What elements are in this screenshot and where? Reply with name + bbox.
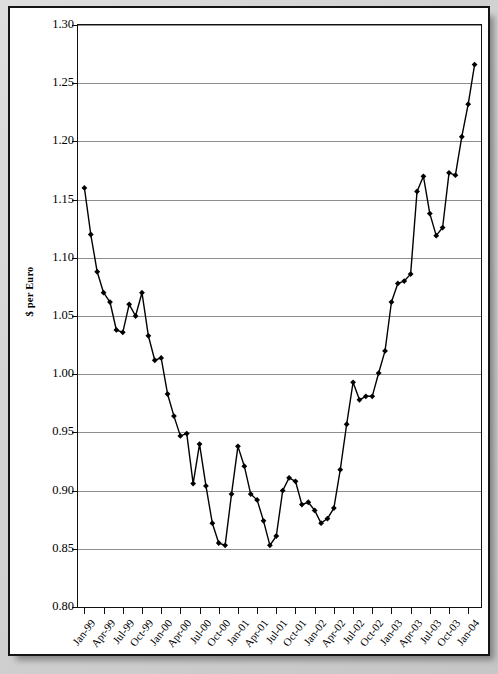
data-point-marker — [94, 269, 100, 275]
x-tick-mark — [449, 607, 450, 614]
x-tick-mark — [104, 607, 105, 614]
x-tick-mark — [353, 607, 354, 614]
y-tick-label: 1.30 — [30, 17, 74, 32]
data-point-marker — [280, 488, 286, 494]
x-tick-mark — [295, 607, 296, 614]
data-point-marker — [203, 483, 209, 489]
y-tick-label: 1.15 — [30, 192, 74, 207]
x-tick-mark — [257, 607, 258, 614]
data-point-marker — [261, 518, 267, 524]
x-tick-mark — [276, 607, 277, 614]
x-tick-mark — [200, 607, 201, 614]
y-tick-label: 1.10 — [30, 250, 74, 265]
data-point-marker — [184, 431, 190, 437]
x-tick-mark — [468, 607, 469, 614]
plot-area: 1.301.251.201.151.101.051.000.950.900.85… — [77, 24, 482, 608]
data-point-marker — [139, 290, 145, 296]
x-tick-mark — [180, 607, 181, 614]
data-point-marker — [88, 232, 94, 238]
x-tick-mark — [315, 607, 316, 614]
y-tick-label: 0.95 — [30, 424, 74, 439]
x-tick-mark — [334, 607, 335, 614]
data-point-marker — [414, 189, 420, 195]
data-point-marker — [459, 134, 465, 140]
x-tick-mark — [123, 607, 124, 614]
data-point-marker — [369, 393, 375, 399]
data-point-marker — [133, 313, 139, 319]
data-point-marker — [337, 467, 343, 473]
plot-wrapper: $ per Euro 1.301.251.201.151.101.051.000… — [10, 8, 488, 654]
x-tick-mark — [219, 607, 220, 614]
data-point-marker — [421, 173, 427, 179]
data-point-marker — [190, 481, 196, 487]
x-tick-mark — [430, 607, 431, 614]
data-point-marker — [376, 370, 382, 376]
data-point-marker — [344, 421, 350, 427]
data-point-marker — [453, 172, 459, 178]
data-point-marker — [241, 463, 247, 469]
y-tick-label: 0.85 — [30, 541, 74, 556]
chart-scene: $ per Euro 1.301.251.201.151.101.051.000… — [0, 0, 498, 674]
data-point-marker — [357, 397, 363, 403]
data-point-marker — [216, 540, 222, 546]
series-line — [84, 65, 474, 546]
data-point-marker — [158, 355, 164, 361]
data-point-marker — [350, 379, 356, 385]
data-point-marker — [382, 348, 388, 354]
data-point-marker — [235, 443, 241, 449]
y-tick-label: 1.05 — [30, 308, 74, 323]
x-tick-mark — [411, 607, 412, 614]
data-point-marker — [120, 329, 126, 335]
data-point-marker — [389, 299, 395, 305]
data-point-marker — [427, 211, 433, 217]
data-point-marker — [465, 101, 471, 107]
data-point-marker — [363, 393, 369, 399]
x-tick-mark — [84, 607, 85, 614]
data-point-marker — [171, 413, 177, 419]
data-point-marker — [145, 333, 151, 339]
data-point-marker — [113, 327, 119, 333]
data-point-marker — [165, 391, 171, 397]
x-tick-mark — [142, 607, 143, 614]
x-tick-mark — [238, 607, 239, 614]
y-tick-label: 1.25 — [30, 75, 74, 90]
data-point-marker — [177, 433, 183, 439]
chart-page: $ per Euro 1.301.251.201.151.101.051.000… — [8, 6, 490, 656]
x-tick-mark — [391, 607, 392, 614]
y-tick-label: 0.80 — [30, 599, 74, 614]
data-series-line — [78, 25, 481, 607]
x-tick-mark — [372, 607, 373, 614]
y-tick-label: 1.00 — [30, 366, 74, 381]
y-tick-label: 0.90 — [30, 483, 74, 498]
data-point-marker — [299, 502, 305, 508]
data-point-marker — [81, 185, 87, 191]
data-point-marker — [222, 542, 228, 548]
data-point-marker — [286, 475, 292, 481]
data-point-marker — [152, 357, 158, 363]
data-point-marker — [126, 301, 132, 307]
data-point-marker — [229, 491, 235, 497]
data-point-marker — [293, 478, 299, 484]
x-tick-mark — [161, 607, 162, 614]
data-point-marker — [197, 441, 203, 447]
data-point-marker — [472, 62, 478, 68]
data-point-marker — [446, 170, 452, 176]
data-point-marker — [395, 281, 401, 287]
y-tick-label: 1.20 — [30, 133, 74, 148]
data-point-marker — [209, 520, 215, 526]
